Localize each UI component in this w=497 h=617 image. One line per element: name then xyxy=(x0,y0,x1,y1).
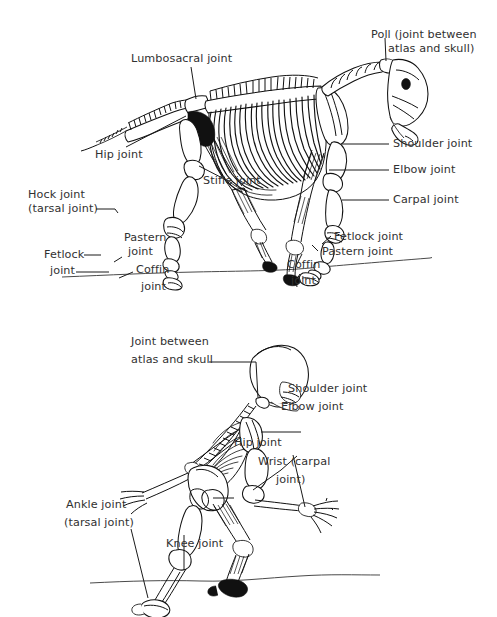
leader-hock xyxy=(96,209,118,213)
label-human-shoulder-joint: Shoulder joint xyxy=(288,382,367,395)
cervical-vertebrae xyxy=(322,59,397,96)
label-pastern-joint-hind: Pastern xyxy=(124,231,166,244)
label-coffin-joint-hind: Coffin xyxy=(136,263,169,276)
label-fetlock-joint-hind: Fetlock xyxy=(44,248,84,261)
label-shoulder-joint: Shoulder joint xyxy=(393,137,472,150)
label-atlas-skull-joint-line2: atlas and skull xyxy=(131,353,213,366)
label-human-hip-joint: Hip joint xyxy=(234,436,282,449)
label-elbow-joint: Elbow joint xyxy=(393,163,455,176)
label-stifle-joint: Stifle joint xyxy=(203,174,261,187)
label-carpal-joint: Carpal joint xyxy=(393,193,459,206)
label-coffin-joint-fore-line2: joint xyxy=(291,274,316,287)
horse-skull xyxy=(388,59,428,145)
label-poll-joint: Poll (joint between xyxy=(371,28,477,41)
diagram-page: Lumbosacral joint Poll (joint between at… xyxy=(0,0,497,617)
label-knee-joint: Knee joint xyxy=(166,537,223,550)
label-ankle-joint: Ankle joint xyxy=(66,498,126,511)
human-pelvis xyxy=(188,465,228,510)
leader-pastern-fore xyxy=(312,245,318,251)
label-fetlock-joint-hind-line2: joint xyxy=(50,264,75,277)
leader-pastern-hind xyxy=(114,257,122,262)
leader-poll xyxy=(385,38,386,61)
human-skeleton-drawing xyxy=(0,310,497,617)
ground-line xyxy=(62,258,432,278)
label-ankle-joint-line2: (tarsal joint) xyxy=(64,516,134,529)
label-wrist-carpal-joint: Wrist (carpal xyxy=(258,455,330,468)
label-pastern-joint-hind-line2: joint xyxy=(128,245,153,258)
label-poll-joint-line2: atlas and skull) xyxy=(388,42,474,55)
leader-coffin-hind xyxy=(119,272,133,278)
label-fetlock-joint-fore: Fetlock joint xyxy=(334,230,403,243)
label-pastern-joint-fore: Pastern joint xyxy=(322,245,393,258)
label-coffin-joint-hind-line2: joint xyxy=(141,280,166,293)
label-atlas-skull-joint: Joint between xyxy=(131,335,209,348)
label-hock-joint-line2: (tarsal joint) xyxy=(28,202,98,215)
label-lumbosacral-joint: Lumbosacral joint xyxy=(131,52,232,65)
scapula xyxy=(316,88,348,146)
leader-ankle xyxy=(131,529,148,598)
label-human-elbow-joint: Elbow joint xyxy=(281,400,343,413)
label-hip-joint: Hip joint xyxy=(95,148,143,161)
human-skeleton-figure: Joint between atlas and skull Shoulder j… xyxy=(0,310,497,617)
horse-skeleton-figure: Lumbosacral joint Poll (joint between at… xyxy=(0,0,497,310)
label-hock-joint: Hock joint xyxy=(28,188,85,201)
label-coffin-joint-fore: Coffin xyxy=(287,258,320,271)
label-wrist-carpal-joint-line2: joint) xyxy=(276,473,306,486)
leader-lumbosacral xyxy=(191,67,196,99)
human-leg-far xyxy=(132,506,202,617)
